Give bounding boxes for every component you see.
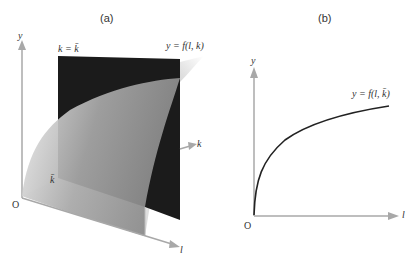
surface-label: y = f(l, k) bbox=[166, 40, 204, 51]
l-axis-b-arrow-icon bbox=[388, 212, 399, 220]
panel-a-label: (a) bbox=[100, 12, 113, 24]
plane-label: k = k̄ bbox=[58, 43, 79, 54]
y-axis-b-arrow-icon bbox=[250, 67, 258, 78]
production-curve bbox=[254, 106, 389, 215]
surface-tail bbox=[180, 56, 204, 82]
panel-a-y-axis-label: y bbox=[18, 30, 22, 41]
panel-b-y-axis-label: y bbox=[251, 55, 255, 66]
panel-a-graphic bbox=[18, 40, 204, 248]
panel-b-origin-label: O bbox=[244, 220, 251, 231]
panel-a-l-axis-label: l bbox=[180, 244, 183, 255]
panel-b-label: (b) bbox=[318, 12, 331, 24]
curve-label: y = f(l, k̄) bbox=[352, 88, 390, 99]
k-axis-a bbox=[180, 146, 190, 149]
y-axis-a-arrow-icon bbox=[18, 40, 26, 50]
panel-a-origin-label: O bbox=[12, 199, 19, 210]
l-axis-a-arrow-icon bbox=[169, 240, 180, 248]
panel-b-l-axis-label: l bbox=[402, 209, 405, 220]
k-bar-mark: k̄ bbox=[50, 174, 54, 185]
k-axis-a-arrow-icon bbox=[188, 142, 197, 150]
panel-a-k-axis-label: k bbox=[197, 138, 201, 149]
diagram-canvas bbox=[0, 0, 419, 264]
